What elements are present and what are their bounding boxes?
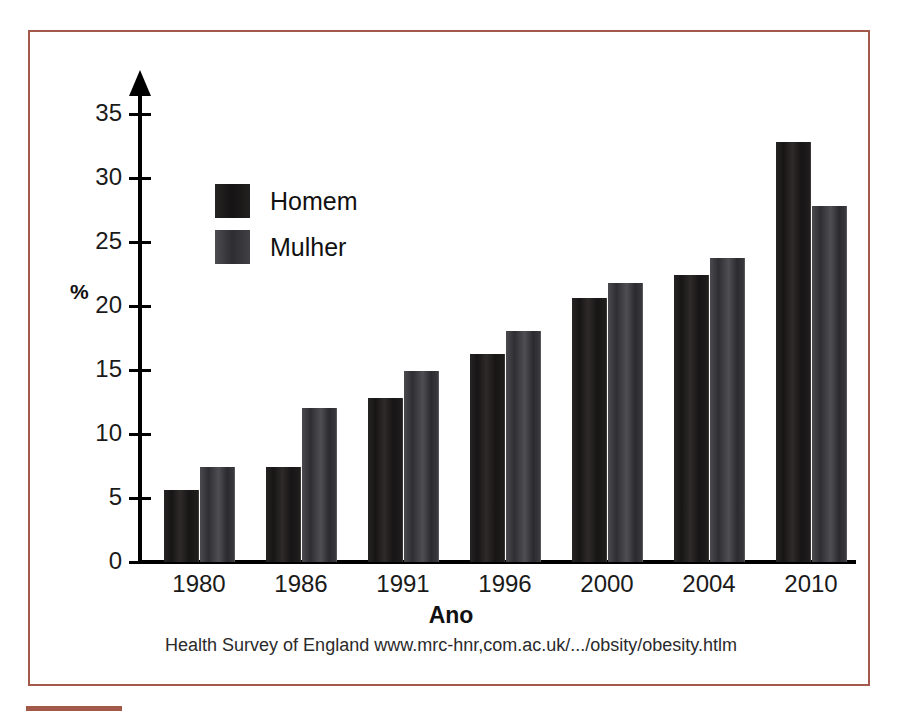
- legend-label: Homem: [270, 187, 358, 216]
- y-tick-label: 0: [76, 547, 122, 575]
- x-tick-label-1986: 1986: [246, 570, 356, 598]
- x-tick-label-2004: 2004: [654, 570, 764, 598]
- bar-group: [674, 88, 744, 562]
- bar-mulher-1996: [506, 331, 541, 562]
- y-tick-label: 35: [76, 99, 122, 127]
- y-tick-label: 25: [76, 227, 122, 255]
- bar-mulher-1991: [404, 371, 439, 562]
- bar-group: [776, 88, 846, 562]
- legend-label: Mulher: [270, 233, 346, 262]
- legend-item-mulher: Mulher: [215, 230, 358, 264]
- legend-swatch-icon: [215, 184, 250, 218]
- bar-homem-1991: [368, 398, 403, 562]
- bar-mulher-2010: [812, 206, 847, 562]
- bar-mulher-1986: [302, 408, 337, 562]
- y-tick-label: 5: [76, 483, 122, 511]
- bar-chart: 05101520253035 % 19801986199119962000200…: [30, 32, 872, 688]
- bar-homem-1986: [266, 467, 301, 562]
- bar-homem-1980: [164, 490, 199, 562]
- bar-group: [368, 88, 438, 562]
- bar-homem-1996: [470, 354, 505, 562]
- bar-mulher-2004: [710, 258, 745, 562]
- bar-group: [164, 88, 234, 562]
- bars-container: [142, 88, 856, 562]
- figure-frame: 05101520253035 % 19801986199119962000200…: [28, 30, 870, 686]
- y-tick-label: 15: [76, 355, 122, 383]
- source-note: Health Survey of England www.mrc-hnr,com…: [30, 635, 872, 656]
- bar-group: [266, 88, 336, 562]
- y-axis-title: %: [70, 280, 89, 304]
- bar-homem-2004: [674, 275, 709, 562]
- bar-homem-2000: [572, 298, 607, 562]
- bar-group: [572, 88, 642, 562]
- bar-mulher-2000: [608, 283, 643, 562]
- y-tick-label: 10: [76, 419, 122, 447]
- chart-legend: HomemMulher: [215, 184, 358, 276]
- x-tick-label-1991: 1991: [348, 570, 458, 598]
- x-axis-title: Ano: [30, 602, 872, 629]
- legend-swatch-icon: [215, 230, 250, 264]
- legend-item-homem: Homem: [215, 184, 358, 218]
- bar-homem-2010: [776, 142, 811, 562]
- bar-group: [470, 88, 540, 562]
- bar-mulher-1980: [200, 467, 235, 562]
- x-tick-label-1980: 1980: [144, 570, 254, 598]
- x-tick-label-2000: 2000: [552, 570, 662, 598]
- frame-underline-mark: [26, 706, 122, 711]
- x-tick-label-1996: 1996: [450, 570, 560, 598]
- x-tick-label-2010: 2010: [756, 570, 866, 598]
- y-tick-label: 30: [76, 163, 122, 191]
